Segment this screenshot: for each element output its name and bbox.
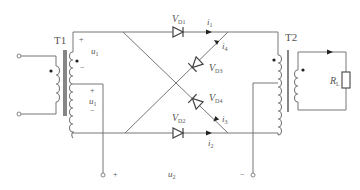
t2-primary (251, 32, 282, 177)
t1-primary-polarity-dot (49, 69, 52, 72)
input-terminal-bottom (17, 112, 21, 116)
t1-secondary-coil (70, 52, 74, 138)
output-terminal-minus (251, 173, 255, 177)
t1-label: T1 (54, 34, 66, 46)
input-terminal-top (17, 54, 21, 58)
t2-secondary-polarity-dot (301, 68, 304, 71)
t1-primary-coil (56, 66, 60, 102)
u1-bottom-minus: − (90, 106, 95, 115)
i4-label: i4 (222, 41, 228, 52)
t1-secondary (70, 32, 136, 177)
rl-label: RL (329, 75, 340, 87)
t2-primary-polarity-dot (272, 58, 275, 61)
i2-label: i2 (208, 138, 214, 149)
vd1-label: VD1 (172, 13, 185, 25)
circuit-diagram: T1 + u1 − + u1 − VD1 VD2 VD3 (0, 0, 360, 190)
u1-bottom-plus: + (90, 86, 95, 95)
vd2-label: VD2 (172, 112, 185, 124)
output-terminal-plus (101, 173, 105, 177)
t2-primary-coil (278, 55, 282, 135)
diode-vd1 (173, 27, 183, 37)
u1-top-label: u1 (91, 46, 99, 57)
i4-arrow (214, 40, 219, 45)
vd3-label: VD3 (209, 62, 222, 74)
u1-top-plus: + (79, 35, 84, 44)
i1-label: i1 (207, 17, 213, 28)
i1-arrow (206, 30, 212, 35)
t2-label: T2 (285, 31, 297, 43)
i3-label: i3 (222, 114, 228, 125)
t2-secondary (295, 50, 351, 111)
t1-secondary-polarity-dot (75, 59, 78, 62)
u2-plus: + (113, 170, 118, 179)
t2-secondary-coil (295, 70, 299, 102)
load-current-arrow (327, 50, 333, 55)
u2-label: u2 (168, 169, 176, 180)
load-resistor (342, 72, 350, 88)
t1-primary-circuit (17, 54, 60, 116)
u2-minus: − (240, 170, 245, 179)
vd4-label: VD4 (209, 92, 222, 104)
i2-arrow (206, 131, 212, 136)
u1-top-minus: − (80, 63, 85, 72)
diode-vd2 (173, 128, 183, 138)
